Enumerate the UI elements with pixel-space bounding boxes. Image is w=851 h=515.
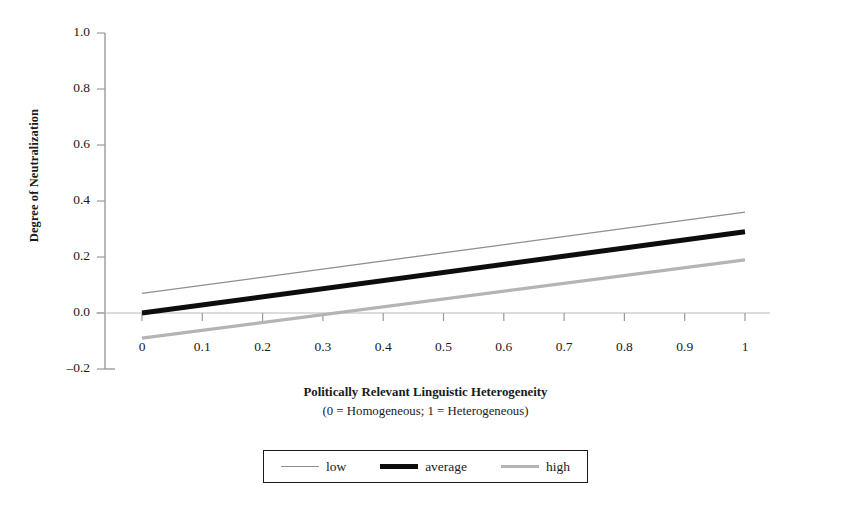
legend-line-swatch-average — [380, 464, 418, 469]
x-tick-label: 0.8 — [601, 340, 647, 354]
y-tick-label: 0.2 — [44, 249, 90, 263]
legend-line-swatch-low — [281, 466, 319, 467]
series-line-low — [142, 212, 745, 293]
x-tick-label: 0.1 — [179, 340, 225, 354]
x-axis-title: Politically Relevant Linguistic Heteroge… — [0, 385, 851, 400]
chart-figure: Degree of Neutralization 1.00.80.60.40.2… — [0, 0, 851, 515]
legend-label-low: low — [326, 459, 346, 475]
x-tick-label: 0 — [119, 340, 165, 354]
y-tick-marks — [97, 33, 105, 369]
x-tick-label: 0.5 — [421, 340, 467, 354]
y-tick-label: –0.2 — [44, 361, 90, 375]
x-tick-marks — [142, 313, 745, 321]
x-tick-label: 0.9 — [662, 340, 708, 354]
y-tick-label: 0.4 — [44, 193, 90, 207]
x-axis-subtitle: (0 = Homogeneous; 1 = Heterogeneous) — [0, 404, 851, 419]
legend-entry-low: low — [281, 459, 346, 475]
y-tick-label: 1.0 — [44, 25, 90, 39]
x-tick-label: 0.6 — [481, 340, 527, 354]
legend-line-swatch-high — [501, 465, 539, 468]
x-tick-label: 0.2 — [240, 340, 286, 354]
x-tick-label: 0.3 — [300, 340, 346, 354]
y-tick-label: 0.0 — [44, 305, 90, 319]
y-tick-label: 0.6 — [44, 137, 90, 151]
x-tick-label: 1 — [722, 340, 768, 354]
x-tick-label: 0.7 — [541, 340, 587, 354]
plot-area — [0, 0, 851, 515]
y-axis-title: Degree of Neutralization — [27, 66, 42, 286]
x-tick-label: 0.4 — [360, 340, 406, 354]
legend-entry-average: average — [380, 459, 467, 475]
y-tick-label: 0.8 — [44, 81, 90, 95]
legend-label-average: average — [425, 459, 467, 475]
legend-label-high: high — [546, 459, 570, 475]
chart-legend: low average high — [263, 450, 588, 483]
legend-entry-high: high — [501, 459, 570, 475]
